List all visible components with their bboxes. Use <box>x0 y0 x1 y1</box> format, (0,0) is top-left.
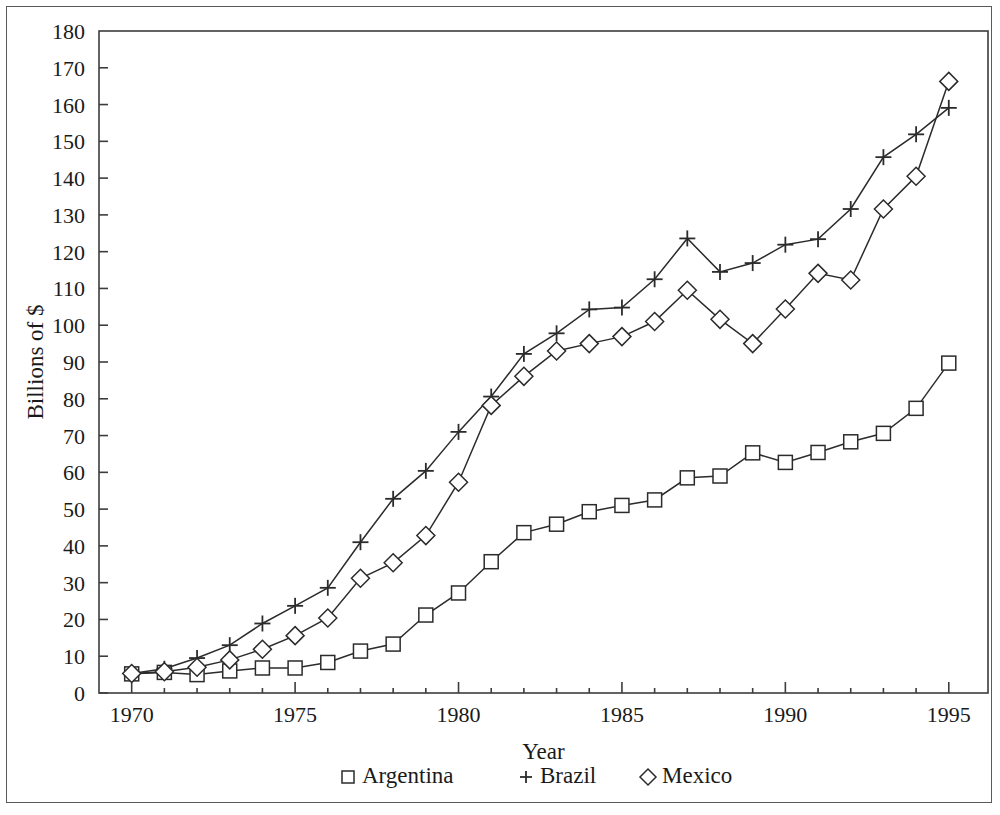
y-tick-label: 180 <box>52 19 85 44</box>
y-tick-label: 60 <box>63 460 85 485</box>
data-point-marker <box>353 644 367 658</box>
y-tick-label: 20 <box>63 607 85 632</box>
series-line <box>132 81 949 673</box>
legend-item-brazil: Brazil <box>520 763 596 788</box>
series-container <box>123 72 958 682</box>
data-point-marker <box>811 445 825 459</box>
data-point-marker <box>255 661 269 675</box>
y-axis-title: Billions of $ <box>23 304 48 419</box>
data-point-marker <box>286 627 304 645</box>
data-point-marker <box>548 342 566 360</box>
x-tick-label: 1980 <box>437 702 481 727</box>
y-tick-label: 40 <box>63 534 85 559</box>
y-tick-label: 90 <box>63 350 85 375</box>
series-line <box>132 108 949 674</box>
data-point-marker <box>580 335 598 353</box>
data-point-marker <box>942 356 956 370</box>
data-point-marker <box>319 609 337 627</box>
data-point-marker <box>351 569 369 587</box>
y-tick-label: 50 <box>63 497 85 522</box>
series-line <box>132 363 949 675</box>
y-tick-label: 10 <box>63 644 85 669</box>
y-tick-label: 0 <box>74 681 85 706</box>
data-point-marker <box>713 469 727 483</box>
data-point-marker <box>384 554 402 572</box>
data-point-marker <box>746 446 760 460</box>
data-point-marker <box>615 498 629 512</box>
series-brazil <box>124 100 957 682</box>
legend-marker-square-icon <box>342 771 354 783</box>
y-tick-label: 170 <box>52 56 85 81</box>
line-chart: 0102030405060708090100110120130140150160… <box>0 0 1000 815</box>
x-tick-label: 1970 <box>110 702 154 727</box>
series-mexico <box>123 72 958 682</box>
legend-label: Mexico <box>662 763 732 788</box>
legend-label: Brazil <box>540 763 596 788</box>
chart-legend: ArgentinaBrazilMexico <box>342 763 732 788</box>
data-point-marker <box>842 271 860 289</box>
x-axis-title: Year <box>522 739 565 764</box>
x-tick-label: 1985 <box>600 702 644 727</box>
x-tick-label: 1975 <box>273 702 317 727</box>
data-point-marker <box>844 435 858 449</box>
data-point-marker <box>778 455 792 469</box>
y-tick-label: 30 <box>63 571 85 596</box>
data-point-marker <box>648 493 662 507</box>
data-point-marker <box>419 608 433 622</box>
data-point-marker <box>613 328 631 346</box>
chart-page: 0102030405060708090100110120130140150160… <box>0 0 1000 815</box>
data-point-marker <box>940 72 958 90</box>
y-tick-label: 140 <box>52 166 85 191</box>
data-point-marker <box>288 661 302 675</box>
data-point-marker <box>876 426 890 440</box>
data-point-marker <box>386 637 400 651</box>
data-point-marker <box>582 505 596 519</box>
legend-item-mexico: Mexico <box>640 763 732 788</box>
y-tick-label: 120 <box>52 240 85 265</box>
legend-label: Argentina <box>362 763 454 788</box>
y-tick-label: 150 <box>52 129 85 154</box>
y-tick-label: 70 <box>63 424 85 449</box>
data-point-marker <box>450 473 468 491</box>
data-point-marker <box>321 655 335 669</box>
y-tick-label: 100 <box>52 313 85 338</box>
data-point-marker <box>517 526 531 540</box>
data-point-marker <box>417 527 435 545</box>
data-point-marker <box>452 586 466 600</box>
legend-item-argentina: Argentina <box>342 763 454 788</box>
y-tick-label: 160 <box>52 93 85 118</box>
y-tick-label: 110 <box>53 276 85 301</box>
x-tick-label: 1990 <box>763 702 807 727</box>
data-point-marker <box>253 640 271 658</box>
y-tick-label: 130 <box>52 203 85 228</box>
data-point-marker <box>680 471 694 485</box>
data-point-marker <box>550 517 564 531</box>
legend-marker-diamond-icon <box>640 769 656 785</box>
x-axis-ticks: 197019751980198519901995 <box>110 682 971 727</box>
x-tick-label: 1995 <box>927 702 971 727</box>
data-point-marker <box>484 555 498 569</box>
y-tick-label: 80 <box>63 387 85 412</box>
data-point-marker <box>909 401 923 415</box>
